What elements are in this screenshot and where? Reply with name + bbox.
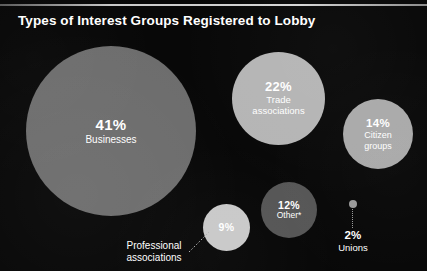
bubble-other-label: Other*: [277, 211, 302, 221]
bubble-trade-associations-percent: 22%: [265, 80, 292, 94]
bubble-trade-associations-label-line1: Trade: [266, 95, 290, 106]
label-unions-label: Unions: [327, 243, 379, 254]
header-rule: [0, 4, 427, 6]
label-professional-associations-line1: Professional: [108, 240, 200, 252]
bubble-professional-associations-percent: 9%: [219, 222, 235, 233]
bubble-trade-associations: 22% Trade associations: [232, 52, 325, 145]
leader-line-unions: [352, 209, 353, 228]
bubble-citizen-groups-label-line1: Citizen: [364, 130, 392, 140]
bubble-other: 12% Other*: [261, 182, 317, 238]
bubble-businesses-percent: 41%: [96, 117, 127, 133]
bubble-citizen-groups: 14% Citizen groups: [343, 99, 413, 169]
label-professional-associations-line2: associations: [108, 252, 200, 264]
label-unions: 2% Unions: [327, 229, 379, 254]
bubble-businesses: 41% Businesses: [26, 46, 196, 216]
bubble-citizen-groups-percent: 14%: [366, 117, 390, 129]
infographic-root: Types of Interest Groups Registered to L…: [0, 0, 427, 271]
bubble-citizen-groups-label-line2: groups: [364, 141, 392, 151]
label-unions-percent: 2%: [327, 229, 379, 242]
bubble-unions: [349, 200, 357, 208]
label-professional-associations: Professional associations: [108, 240, 200, 263]
bubble-businesses-label: Businesses: [85, 134, 136, 145]
bubble-trade-associations-label-line2: associations: [252, 106, 304, 117]
page-title: Types of Interest Groups Registered to L…: [18, 13, 315, 28]
bubble-professional-associations: 9%: [203, 204, 250, 251]
